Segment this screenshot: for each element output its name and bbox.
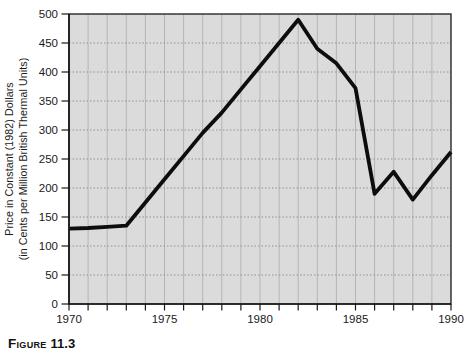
x-tick-label: 1990 [438, 313, 464, 325]
figure-caption: Figure11.3 [8, 334, 75, 352]
price-chart-svg: 0501001502002503003504004505001970197519… [0, 0, 473, 352]
x-tick-label: 1975 [152, 313, 178, 325]
y-axis-title-line1: Price in Constant (1982) Dollars [3, 82, 15, 235]
y-tick-label: 450 [39, 37, 58, 49]
y-tick-label: 350 [39, 95, 58, 107]
x-tick-label: 1970 [56, 313, 82, 325]
y-axis-title-line2: (in Cents per Million British Thermal Un… [17, 58, 29, 261]
y-tick-label: 150 [39, 211, 58, 223]
y-tick-label: 500 [39, 8, 58, 20]
y-tick-label: 100 [39, 240, 58, 252]
y-tick-label: 250 [39, 153, 58, 165]
figure-page: 0501001502002503003504004505001970197519… [0, 0, 473, 360]
y-tick-label: 400 [39, 66, 58, 78]
y-tick-label: 300 [39, 124, 58, 136]
x-tick-label: 1985 [343, 313, 369, 325]
figure-caption-number: 11.3 [51, 336, 76, 351]
chart-plot-area: 0501001502002503003504004505001970197519… [39, 8, 464, 325]
y-tick-label: 0 [52, 298, 58, 310]
figure-caption-word: Figure [8, 336, 47, 351]
y-tick-label: 200 [39, 182, 58, 194]
y-tick-label: 50 [45, 269, 58, 281]
x-tick-label: 1980 [247, 313, 273, 325]
